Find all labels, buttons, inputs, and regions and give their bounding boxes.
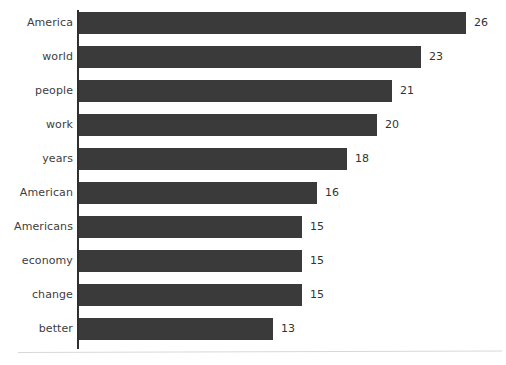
bar-value-label: 21 — [400, 80, 414, 102]
bar-value-label: 15 — [310, 250, 324, 272]
bar-chart: America26world23people21work20years18Ame… — [0, 0, 506, 365]
bar-value-label: 13 — [281, 318, 295, 340]
bar-row: years18 — [0, 148, 506, 170]
bar — [79, 148, 347, 170]
bar — [79, 250, 302, 272]
category-label: years — [42, 148, 73, 170]
bar-row: world23 — [0, 46, 506, 68]
category-label: American — [20, 182, 73, 204]
bar-row: Americans15 — [0, 216, 506, 238]
category-label: Americans — [14, 216, 73, 238]
bar — [79, 216, 302, 238]
bar-value-label: 23 — [429, 46, 443, 68]
bar — [79, 318, 273, 340]
category-label: better — [39, 318, 73, 340]
bar — [79, 182, 317, 204]
bar-row: people21 — [0, 80, 506, 102]
bar-value-label: 18 — [355, 148, 369, 170]
category-label: economy — [22, 250, 73, 272]
category-label: world — [42, 46, 73, 68]
bar-value-label: 20 — [385, 114, 399, 136]
bar-value-label: 15 — [310, 284, 324, 306]
bar-row: better13 — [0, 318, 506, 340]
bar-value-label: 16 — [325, 182, 339, 204]
category-label: work — [46, 114, 73, 136]
category-label: America — [27, 12, 73, 34]
category-label: change — [32, 284, 73, 306]
bar-value-label: 15 — [310, 216, 324, 238]
bar-row: work20 — [0, 114, 506, 136]
bar — [79, 114, 377, 136]
bar-row: economy15 — [0, 250, 506, 272]
bar — [79, 46, 421, 68]
bar — [79, 80, 392, 102]
bar — [79, 284, 302, 306]
bar-row: America26 — [0, 12, 506, 34]
bar-row: American16 — [0, 182, 506, 204]
bar-value-label: 26 — [474, 12, 488, 34]
plot-area: America26world23people21work20years18Ame… — [0, 0, 506, 365]
category-label: people — [35, 80, 73, 102]
bar-row: change15 — [0, 284, 506, 306]
bar — [79, 12, 466, 34]
